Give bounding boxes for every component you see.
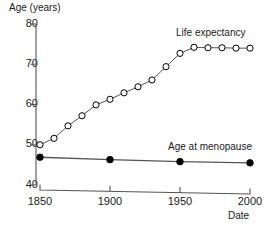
data-point-marker <box>163 64 169 70</box>
data-point-marker <box>247 45 253 51</box>
data-point-marker <box>107 156 114 163</box>
data-point-marker <box>93 102 99 108</box>
data-point-marker <box>247 160 254 167</box>
series-line <box>40 47 250 144</box>
chart-figure: Age (years) 80 70 60 50 40 1850 1900 195… <box>0 0 274 228</box>
series-life-expectancy <box>37 44 253 148</box>
data-point-marker <box>219 45 225 51</box>
data-point-marker <box>233 45 239 51</box>
axes-group <box>31 24 250 194</box>
data-point-marker <box>37 142 43 148</box>
y-axis-line <box>31 24 36 185</box>
data-point-marker <box>65 123 71 129</box>
data-point-marker <box>149 77 155 83</box>
data-point-marker <box>191 44 197 50</box>
data-point-marker <box>177 50 183 56</box>
data-point-marker <box>135 84 141 90</box>
data-point-marker <box>51 135 57 141</box>
series-age-at-menopause <box>37 154 254 166</box>
series-line <box>40 157 250 163</box>
x-axis-line <box>40 185 250 194</box>
data-point-marker <box>79 113 85 119</box>
data-point-marker <box>107 96 113 102</box>
data-point-marker <box>121 90 127 96</box>
plot-area <box>0 0 274 228</box>
data-point-marker <box>205 45 211 51</box>
data-point-marker <box>37 154 44 161</box>
data-point-marker <box>177 158 184 165</box>
